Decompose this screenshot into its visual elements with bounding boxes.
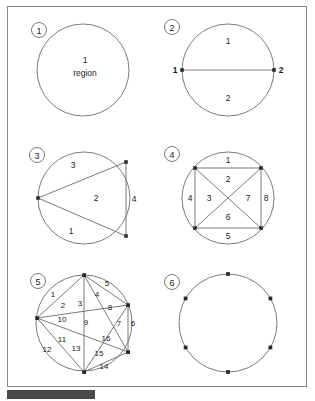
page-frame — [7, 6, 307, 387]
bottom-progress-bar — [7, 390, 95, 399]
page-root: 1 1 region 2 1 2 1 2 3 3 2 4 1 4 1 2 3 4… — [0, 0, 315, 401]
